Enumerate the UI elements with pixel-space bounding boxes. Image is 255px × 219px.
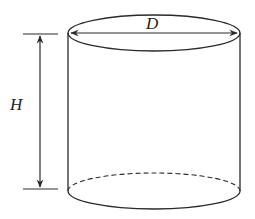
cylinder-diagram: D H bbox=[0, 0, 255, 219]
cylinder-bottom-back-arc bbox=[68, 173, 240, 191]
height-label: H bbox=[9, 95, 24, 114]
cylinder-bottom-front-arc bbox=[68, 191, 240, 209]
diameter-label: D bbox=[145, 14, 159, 33]
